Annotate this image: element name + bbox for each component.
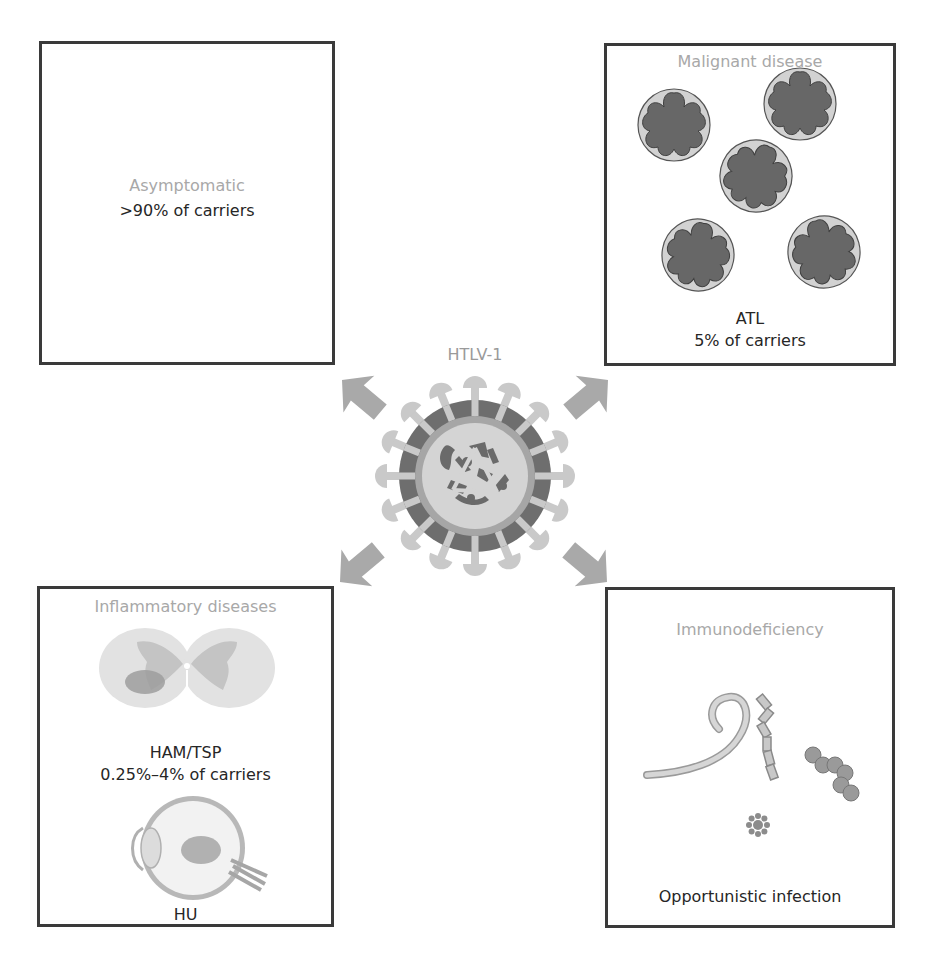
arrow-to-malignant-icon: [554, 362, 623, 431]
panel-immunodeficiency: Immunodeficiency Opportuni: [605, 587, 895, 928]
atl-percentage: 5% of carriers: [607, 330, 893, 351]
bacillus-chain-icon: [756, 694, 778, 780]
flower-cell-icon: [780, 208, 868, 296]
eye-icon: [133, 796, 268, 900]
arrow-to-inflammatory-icon: [325, 531, 394, 600]
panel-malignant-disease: Malignant disease ATL 5% of carriers: [604, 43, 896, 366]
panel-asymptomatic: Asymptomatic >90% of carriers: [39, 41, 335, 365]
ham-tsp-percentage: 0.25%–4% of carriers: [40, 764, 331, 785]
coccus-chain-icon: [805, 747, 859, 801]
ham-tsp-label: HAM/TSP: [40, 742, 331, 763]
spinal-cord-icon: [99, 628, 275, 708]
panel-inflammatory-diseases: Inflammatory diseases HAM/TSP 0.25%–4% o…: [37, 586, 334, 927]
pathogen-illustrations: [605, 587, 895, 928]
hu-label: HU: [40, 904, 331, 925]
panel-title-asymptomatic: Asymptomatic: [42, 176, 332, 195]
opportunistic-infection-label: Opportunistic infection: [608, 886, 892, 907]
flower-cell-icon: [708, 128, 804, 224]
flower-cell-icon: [656, 213, 739, 296]
arrow-to-asymptomatic-icon: [327, 362, 396, 431]
virus-title: HTLV-1: [425, 345, 525, 364]
atl-label: ATL: [607, 308, 893, 329]
worm-icon: [647, 697, 746, 775]
asymptomatic-percentage: >90% of carriers: [42, 200, 332, 221]
virus-icon: [375, 376, 575, 576]
fungus-icon: [746, 813, 770, 837]
flower-cell-icon: [638, 89, 710, 161]
flower-cell-icon: [764, 68, 836, 140]
